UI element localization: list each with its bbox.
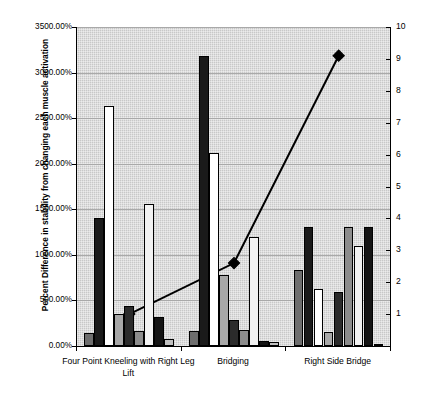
y-axis-title: Percent Difference in stability from cha… — [40, 10, 50, 340]
x-axis-category-label: Right Side Bridge — [265, 355, 410, 367]
y-axis-tick-label: 0.00% — [0, 341, 72, 350]
secondary-y-axis-tick-label: 8 — [396, 85, 422, 95]
bar — [84, 333, 94, 346]
secondary-y-axis-tick-label: 2 — [396, 276, 422, 286]
bar — [189, 331, 199, 346]
y-axis-tick-mark — [72, 164, 76, 165]
secondary-y-axis-tick-label: 6 — [396, 149, 422, 159]
secondary-y-axis-tick-label: 5 — [396, 181, 422, 191]
secondary-y-axis-tick-label: 9 — [396, 53, 422, 63]
bar — [104, 106, 114, 346]
y-axis-tick-label: 2500.00% — [0, 113, 72, 122]
secondary-y-axis-tick-label: 10 — [396, 21, 422, 31]
secondary-y-axis-tick-mark — [386, 314, 390, 315]
bar — [354, 246, 364, 346]
x-axis-tick-mark — [76, 347, 77, 351]
bar — [114, 314, 124, 346]
secondary-y-axis-tick-label: 4 — [396, 212, 422, 222]
y-axis-tick-mark — [72, 209, 76, 210]
secondary-y-axis-tick-mark — [386, 59, 390, 60]
bar — [374, 344, 384, 346]
chart-container: Percent Difference in stability from cha… — [0, 0, 439, 399]
secondary-y-axis-tick-label: 3 — [396, 244, 422, 254]
secondary-y-axis-tick-mark — [386, 123, 390, 124]
secondary-y-axis-tick-mark — [386, 250, 390, 251]
bar — [154, 317, 164, 346]
y-axis-tick-mark — [72, 27, 76, 28]
y-axis-tick-label: 500.00% — [0, 295, 72, 304]
x-axis-tick-mark — [181, 347, 182, 351]
bar — [134, 331, 144, 346]
bar — [164, 339, 174, 346]
bar — [144, 204, 154, 346]
bar — [364, 227, 374, 346]
bar — [304, 227, 314, 346]
y-axis-tick-mark — [72, 73, 76, 74]
bar — [294, 270, 304, 346]
bar — [209, 153, 219, 346]
y-axis-tick-label: 2000.00% — [0, 159, 72, 168]
bar — [314, 289, 324, 346]
y-axis-tick-label: 1000.00% — [0, 250, 72, 259]
bar — [124, 306, 134, 346]
y-axis-tick-mark — [72, 300, 76, 301]
secondary-y-axis-tick-label: 1 — [396, 308, 422, 318]
secondary-y-axis-tick-mark — [386, 155, 390, 156]
bar — [239, 330, 249, 346]
x-axis-tick-mark — [390, 347, 391, 351]
secondary-y-axis-tick-mark — [386, 187, 390, 188]
y-axis-tick-mark — [72, 118, 76, 119]
bar — [199, 56, 209, 346]
bar — [249, 237, 259, 346]
secondary-y-axis-tick-mark — [386, 218, 390, 219]
y-axis-tick-label: 1500.00% — [0, 204, 72, 213]
line-series-marker — [228, 257, 239, 268]
bar — [94, 218, 104, 346]
secondary-y-axis-line — [390, 27, 391, 347]
bar — [344, 227, 354, 346]
bar — [324, 332, 334, 346]
bar — [259, 341, 269, 346]
y-axis-tick-mark — [72, 255, 76, 256]
bar — [229, 320, 239, 346]
bar — [269, 342, 279, 346]
y-axis-tick-label: 3500.00% — [0, 22, 72, 31]
secondary-y-axis-tick-label: 7 — [396, 117, 422, 127]
secondary-y-axis-tick-mark — [386, 91, 390, 92]
y-axis-tick-label: 3000.00% — [0, 68, 72, 77]
bar — [334, 292, 344, 346]
secondary-y-axis-tick-mark — [386, 27, 390, 28]
bar — [219, 275, 229, 346]
secondary-y-axis-tick-mark — [386, 282, 390, 283]
plot-area — [76, 27, 391, 347]
x-axis-tick-mark — [285, 347, 286, 351]
line-series-marker — [333, 50, 344, 61]
